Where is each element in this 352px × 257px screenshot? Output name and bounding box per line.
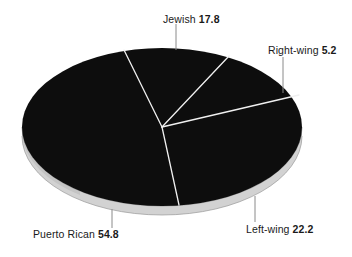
callout-category-right-wing: Right-wing bbox=[268, 44, 319, 56]
callout-category-left-wing: Left-wing bbox=[246, 223, 290, 235]
callout-label-right-wing: Right-wing 5.2 bbox=[268, 45, 337, 57]
callout-value-right-wing: 5.2 bbox=[322, 44, 337, 56]
callout-label-jewish: Jewish 17.8 bbox=[163, 14, 220, 26]
callout-label-left-wing: Left-wing 22.2 bbox=[246, 224, 313, 236]
callout-label-puerto-rican: Puerto Rican 54.8 bbox=[33, 229, 119, 241]
callout-value-jewish: 17.8 bbox=[199, 13, 220, 25]
callout-category-puerto-rican: Puerto Rican bbox=[33, 228, 95, 240]
callout-value-puerto-rican: 54.8 bbox=[98, 228, 119, 240]
callout-value-left-wing: 22.2 bbox=[293, 223, 314, 235]
callout-category-jewish: Jewish bbox=[163, 13, 196, 25]
pie-chart-graphic bbox=[0, 0, 352, 257]
pie-chart-figure: Jewish 17.8 Right-wing 5.2 Left-wing 22.… bbox=[0, 0, 352, 257]
